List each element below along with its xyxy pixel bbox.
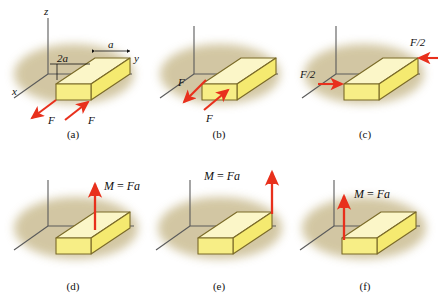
panel-caption-f: (f) [292,280,438,292]
block-end-face [56,84,91,100]
panel-e: M = Fa (e) [146,152,292,302]
moment-label: M = Fa [203,169,240,183]
force-label-left: F [47,114,55,126]
moment-vector-arrow [268,172,276,214]
half-force-label-lower: F/2 [299,68,316,80]
force-label-left: F [177,76,185,88]
panel-f: M = Fa (f) [292,152,438,302]
axis-label-y: y [133,52,139,64]
moment-label: M = Fa [353,187,390,201]
force-label-bottom: F [205,112,213,124]
moment-label: M = Fa [103,179,140,193]
dimension-label-a: a [108,38,114,50]
panel-caption-e: (e) [146,280,292,292]
panel-d: M = Fa (d) [0,152,146,302]
block-end-face [344,84,379,100]
dimension-label-2a: 2a [57,52,69,64]
half-force-label-upper: F/2 [409,36,426,48]
panel-caption-d: (d) [0,280,146,292]
axis-label-x: x [11,85,17,97]
axis-label-z: z [43,5,49,17]
mechanics-figure: z y x a 2a F F (a) [0,0,438,302]
force-label-right: F [87,114,95,126]
panel-b: F F (b) [146,2,292,153]
block-end-face [198,238,233,254]
force-arrow-right [65,102,88,120]
panel-caption-c: (c) [292,128,438,140]
block-end-face [56,238,91,254]
panel-a: z y x a 2a F F (a) [0,2,146,153]
panel-caption-b: (b) [146,128,292,140]
block-end-face [342,238,377,254]
panel-c: F/2 F/2 (c) [292,2,438,153]
panel-caption-a: (a) [0,128,146,140]
